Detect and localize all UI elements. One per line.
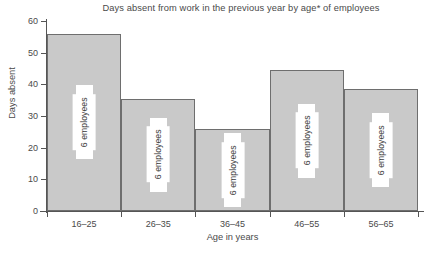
x-tick-mark bbox=[344, 211, 345, 217]
bar-chart-figure: Days absent from work in the previous ye… bbox=[0, 0, 425, 256]
bar-label: 6 employees bbox=[73, 94, 96, 150]
y-tick-mark bbox=[41, 21, 47, 22]
x-axis-line bbox=[40, 211, 424, 212]
bar-label: 6 employees bbox=[295, 113, 318, 169]
chart-title: Days absent from work in the previous ye… bbox=[62, 3, 420, 13]
x-tick-mark bbox=[418, 211, 419, 217]
bar-label: 6 employees bbox=[221, 142, 244, 198]
bar-label-box: 6 employees bbox=[150, 118, 167, 192]
y-tick-label: 60 bbox=[8, 16, 38, 26]
x-tick-mark bbox=[270, 211, 271, 217]
bar-label-box: 6 employees bbox=[224, 133, 241, 207]
y-tick-label: 10 bbox=[8, 174, 38, 184]
bar-label-box: 6 employees bbox=[372, 113, 389, 187]
x-tick-mark bbox=[121, 211, 122, 217]
y-tick-label: 0 bbox=[8, 206, 38, 216]
y-axis-label: Days absent bbox=[7, 53, 17, 133]
bar[interactable]: 6 employees bbox=[270, 70, 344, 211]
y-tick-label: 40 bbox=[8, 79, 38, 89]
x-tick-mark bbox=[195, 211, 196, 217]
bar-label: 6 employees bbox=[147, 127, 170, 183]
bar[interactable]: 6 employees bbox=[121, 99, 195, 211]
x-tick-label: 56–65 bbox=[336, 219, 425, 229]
bar[interactable]: 6 employees bbox=[47, 34, 121, 211]
bar-label-box: 6 employees bbox=[76, 85, 93, 159]
y-tick-label: 30 bbox=[8, 111, 38, 121]
bar-label: 6 employees bbox=[370, 122, 393, 178]
bar[interactable]: 6 employees bbox=[344, 89, 418, 211]
y-tick-label: 50 bbox=[8, 48, 38, 58]
bar[interactable]: 6 employees bbox=[195, 129, 269, 211]
bar-label-box: 6 employees bbox=[298, 104, 315, 178]
y-tick-label: 20 bbox=[8, 143, 38, 153]
x-tick-mark bbox=[47, 211, 48, 217]
x-axis-label: Age in years bbox=[47, 232, 418, 242]
